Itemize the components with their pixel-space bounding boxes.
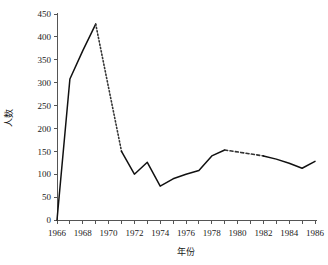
- x-tick-label: 1980: [229, 228, 248, 238]
- x-tick-label: 1968: [74, 228, 93, 238]
- y-tick-label: 50: [42, 192, 52, 202]
- y-tick-label: 150: [38, 147, 52, 157]
- x-tick-label: 1984: [280, 228, 299, 238]
- x-tick-label: 1966: [48, 228, 67, 238]
- chart-container: 050100150200250300350400450 196619681970…: [0, 0, 328, 265]
- x-tick-label: 1970: [100, 228, 119, 238]
- y-tick-label: 200: [38, 124, 52, 134]
- y-tick-label: 100: [38, 169, 52, 179]
- x-tick-label: 1978: [203, 228, 222, 238]
- x-tick-label: 1986: [306, 228, 325, 238]
- y-tick-label: 0: [47, 215, 52, 225]
- y-tick-label: 300: [38, 78, 52, 88]
- x-axis-title: 年份: [177, 246, 195, 257]
- y-tick-label: 250: [38, 101, 52, 111]
- x-tick-label: 1976: [177, 228, 196, 238]
- y-tick-label: 350: [38, 55, 52, 65]
- line-chart: 050100150200250300350400450 196619681970…: [0, 0, 328, 265]
- y-axis-title: 人数: [3, 109, 14, 127]
- x-tick-label: 1982: [254, 228, 272, 238]
- x-tick-label: 1972: [125, 228, 143, 238]
- y-tick-label: 450: [38, 9, 52, 19]
- x-tick-label: 1974: [151, 228, 170, 238]
- y-tick-label: 400: [38, 32, 52, 42]
